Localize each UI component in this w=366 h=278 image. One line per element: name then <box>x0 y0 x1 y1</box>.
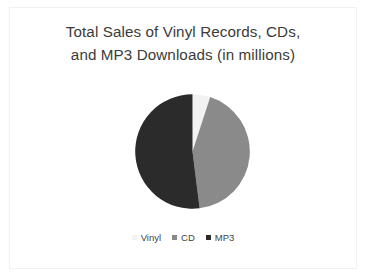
pie-slices <box>135 94 250 209</box>
legend-swatch-cd-icon <box>172 235 177 240</box>
pie-slice-mp3[interactable] <box>135 94 199 209</box>
legend-label-vinyl: Vinyl <box>141 232 161 243</box>
legend-item-cd[interactable]: CD <box>172 232 195 243</box>
slide-canvas: Total Sales of Vinyl Records, CDs, and M… <box>0 0 366 278</box>
legend-swatch-mp3-icon <box>206 235 211 240</box>
legend-label-cd: CD <box>181 232 195 243</box>
legend-item-vinyl[interactable]: Vinyl <box>132 232 161 243</box>
legend-swatch-vinyl-icon <box>132 235 137 240</box>
legend-item-mp3[interactable]: MP3 <box>206 232 235 243</box>
pie-chart <box>134 83 251 220</box>
chart-legend: Vinyl CD MP3 <box>0 232 366 243</box>
legend-label-mp3: MP3 <box>215 232 235 243</box>
